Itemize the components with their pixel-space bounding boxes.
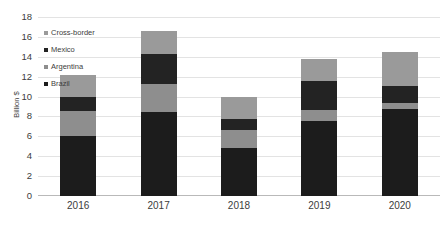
y-axis-tick-label: 10 [6, 92, 32, 102]
legend-label: Argentina [51, 63, 83, 71]
y-axis-tick-label: 8 [6, 111, 32, 121]
bar-stack [301, 59, 337, 196]
bar-segment-cross-border [382, 52, 418, 86]
bar-segment-brazil [301, 121, 337, 196]
bar-segment-argentina [301, 110, 337, 121]
bar-segment-cross-border [301, 59, 337, 81]
legend-item-argentina[interactable]: Argentina [44, 60, 154, 74]
legend-label: Mexico [51, 46, 75, 54]
y-axis-tick-label: 0 [6, 191, 32, 201]
x-axis-tick-label-2018: 2018 [199, 200, 279, 212]
x-axis-tick-label-2019: 2019 [279, 200, 359, 212]
bar-segment-cross-border [221, 97, 257, 120]
x-axis: 20162017201820192020 [38, 200, 440, 218]
bar-group-2019 [301, 17, 337, 196]
bar-segment-brazil [141, 112, 177, 196]
y-axis-tick-label: 12 [6, 72, 32, 82]
bar-stack [382, 52, 418, 196]
y-axis-tick-label: 14 [6, 52, 32, 62]
bar-segment-brazil [60, 136, 96, 196]
y-axis-tick-label: 18 [6, 12, 32, 22]
bar-segment-brazil [221, 148, 257, 196]
legend-item-brazil[interactable]: Brazil [44, 77, 154, 91]
legend-swatch-icon [44, 48, 48, 52]
legend-label: Cross-border [51, 29, 95, 37]
bar-segment-mexico [382, 86, 418, 103]
stacked-bar-chart: 024681012141618 Billion $ 20162017201820… [0, 0, 448, 235]
y-axis-tick-label: 2 [6, 171, 32, 181]
legend-swatch-icon [44, 65, 48, 69]
bar-segment-argentina [221, 130, 257, 148]
x-axis-tick-label-2016: 2016 [38, 200, 118, 212]
bar-stack [221, 97, 257, 196]
x-axis-tick-label-2020: 2020 [360, 200, 440, 212]
bar-segment-argentina [60, 111, 96, 136]
legend-label: Brazil [51, 80, 70, 88]
bar-segment-mexico [60, 97, 96, 112]
bar-segment-mexico [301, 81, 337, 111]
chart-legend: Cross-borderMexicoArgentinaBrazil [44, 26, 154, 94]
legend-swatch-icon [44, 31, 48, 35]
bar-group-2018 [221, 17, 257, 196]
bar-group-2020 [382, 17, 418, 196]
y-axis-tick-label: 16 [6, 32, 32, 42]
y-axis-tick-label: 4 [6, 151, 32, 161]
legend-item-cross-border[interactable]: Cross-border [44, 26, 154, 40]
bar-segment-mexico [221, 119, 257, 130]
legend-swatch-icon [44, 82, 48, 86]
y-axis-title: Billion $ [12, 85, 21, 125]
legend-item-mexico[interactable]: Mexico [44, 43, 154, 57]
bar-segment-brazil [382, 109, 418, 197]
x-axis-tick-label-2017: 2017 [118, 200, 198, 212]
y-axis-tick-label: 6 [6, 131, 32, 141]
